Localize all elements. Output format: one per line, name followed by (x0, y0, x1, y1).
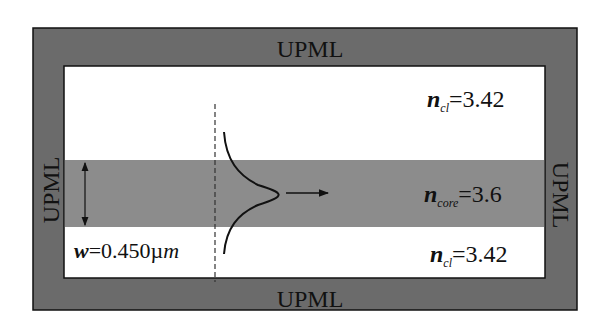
upml-label-left: UPML (38, 157, 64, 224)
upml-label-right: UPML (548, 162, 574, 229)
upml-label-bottom: UPML (277, 286, 344, 312)
upml-label-top: UPML (277, 36, 344, 62)
waveguide-diagram: UPML UPML UPML UPML ncl=3.42 ncore=3.6 n… (0, 0, 602, 326)
upper-cladding-index: ncl=3.42 (427, 86, 505, 115)
core-index: ncore=3.6 (424, 181, 502, 210)
core-width-label: w=0.450µm (74, 238, 179, 263)
lower-cladding-index: ncl=3.42 (430, 241, 508, 270)
